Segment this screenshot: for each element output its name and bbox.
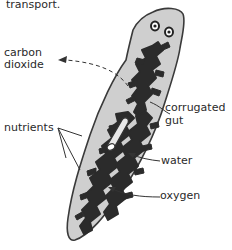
label-corrugated-gut-line2: gut — [165, 114, 183, 127]
label-oxygen: oxygen — [160, 189, 200, 202]
carbon-dioxide-arrowhead — [58, 56, 67, 63]
label-carbon-dioxide-line2: dioxide — [4, 58, 44, 71]
label-nutrients: nutrients — [4, 121, 54, 134]
label-corrugated-gut-line1: corrugated — [165, 101, 225, 114]
label-water: water — [161, 154, 192, 167]
nutrients-pointer-2 — [58, 128, 66, 158]
